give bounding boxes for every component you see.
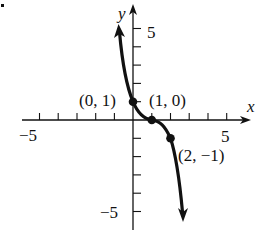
bullet-marker [1, 4, 4, 7]
y-axis [129, 4, 141, 230]
point-2-neg1 [166, 134, 175, 143]
y-tick-label-neg5: −5 [100, 203, 118, 222]
point-label-1-0: (1, 0) [149, 91, 186, 110]
point-1-0 [148, 116, 157, 125]
x-axis-label: x [246, 97, 255, 116]
y-axis-label: y [116, 4, 126, 23]
x-tick-label-5: 5 [221, 127, 230, 146]
x-tick-label-neg5: −5 [19, 126, 37, 145]
x-axis [22, 113, 251, 124]
point-label-0-1: (0, 1) [79, 91, 116, 110]
cubic-function-graph: y x 5 −5 −5 5 (0, 1) (1, 0) (2, −1) [0, 0, 258, 234]
point-0-1 [129, 97, 138, 106]
y-tick-label-5: 5 [147, 23, 156, 42]
point-label-2-neg1: (2, −1) [178, 146, 224, 165]
